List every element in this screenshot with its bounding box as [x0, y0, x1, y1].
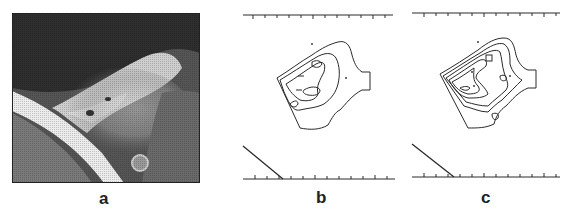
panel-a-label: a: [99, 189, 108, 209]
contour-peak-box: [486, 55, 492, 61]
top-axis-ticks: [424, 13, 556, 17]
diagonal-boundary-line: [412, 144, 454, 177]
bottom-axis-ticks: [424, 173, 556, 177]
bottom-axis-ticks: [255, 175, 387, 179]
contour-small-island: [290, 101, 298, 107]
contour-outer: [277, 42, 370, 130]
contour-inner: [460, 87, 470, 91]
panel-c-contour-map: [402, 0, 567, 190]
panel-c-label: c: [481, 188, 490, 208]
top-axis-ticks: [253, 15, 385, 19]
contour-plot-c: [402, 0, 567, 190]
panel-b-label: b: [316, 188, 326, 208]
diagonal-boundary-line: [243, 146, 283, 179]
contour-outer: [440, 38, 536, 128]
contour-plot-b: [240, 0, 400, 190]
panel-b-contour-map: [240, 0, 400, 190]
photograph-image: [12, 13, 200, 183]
panel-a-photograph: [12, 13, 200, 183]
